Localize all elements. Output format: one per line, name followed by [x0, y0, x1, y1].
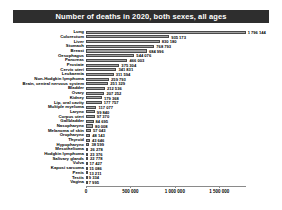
bar — [86, 134, 90, 137]
bar — [86, 68, 116, 71]
bar — [86, 35, 169, 38]
bar — [86, 171, 88, 174]
bar — [86, 49, 147, 52]
bar — [86, 40, 160, 43]
bar — [86, 101, 102, 104]
bar — [86, 148, 88, 151]
bar — [86, 157, 88, 160]
bar — [86, 124, 93, 127]
bar — [86, 181, 88, 184]
bar — [86, 167, 88, 170]
bar — [86, 139, 90, 142]
bar — [86, 87, 105, 90]
x-axis-tick-label: 1 000 000 — [165, 189, 185, 194]
chart-title: Number of deaths in 2020, both sexes, al… — [56, 12, 227, 21]
bar — [86, 162, 88, 165]
bar — [86, 54, 134, 57]
x-axis-tick — [175, 186, 176, 188]
bar — [86, 106, 96, 109]
bar-chart: Lung1 796 144Colorectum935 173Liver830 1… — [0, 30, 282, 185]
bar — [86, 115, 95, 118]
x-axis-tick-label: 500 000 — [122, 189, 138, 194]
bar — [86, 176, 88, 179]
x-axis: 0500 0001 000 0001 500 000 — [86, 186, 248, 196]
value-label: 7 995 — [89, 181, 99, 185]
bar-row: Vagina7 995 — [0, 180, 282, 185]
bar — [86, 153, 88, 156]
bar — [86, 92, 104, 95]
x-axis-tick-label: 1 500 000 — [209, 189, 229, 194]
bar — [86, 31, 246, 34]
x-axis-tick — [219, 186, 220, 188]
chart-figure: Number of deaths in 2020, both sexes, al… — [0, 0, 282, 210]
x-axis-tick-label: 0 — [85, 189, 88, 194]
bar — [86, 82, 108, 85]
bar — [86, 120, 94, 123]
bar — [86, 110, 95, 113]
bar-rows: Lung1 796 144Colorectum935 173Liver830 1… — [0, 30, 282, 185]
bar — [86, 73, 114, 76]
x-axis-tick — [130, 186, 131, 188]
category-label: Vagina — [0, 180, 86, 184]
x-axis-line — [86, 186, 246, 187]
plot-area: 7 995 — [86, 180, 282, 185]
chart-title-bar: Number of deaths in 2020, both sexes, al… — [13, 10, 269, 23]
bar — [86, 45, 154, 48]
bar — [86, 143, 89, 146]
bar — [86, 59, 127, 62]
bar — [86, 64, 119, 67]
bar — [86, 78, 109, 81]
x-axis-tick — [86, 186, 87, 188]
bar — [86, 129, 91, 132]
bar — [86, 96, 102, 99]
